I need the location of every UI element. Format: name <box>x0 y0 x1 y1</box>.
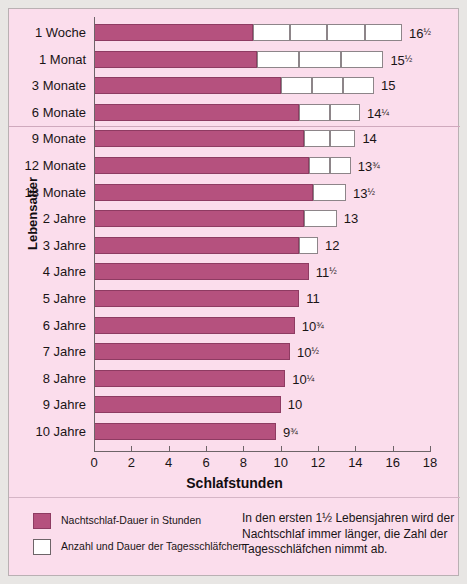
bar-value-label: 9¾ <box>283 423 298 441</box>
x-axis-tick-label: 6 <box>191 455 221 470</box>
category-label: 9 Jahre <box>9 397 86 412</box>
bar-segment-nap <box>304 130 330 147</box>
bar-segment-night-sleep <box>94 77 281 94</box>
bar-segment-nap <box>313 184 346 201</box>
bar-value-label: 15 <box>381 77 395 94</box>
bar-segment-nap <box>365 24 402 41</box>
x-axis-tick <box>131 446 132 451</box>
bar-segment-nap <box>309 157 330 174</box>
chart-caption: In den ersten 1½ Lebensjahren wird der N… <box>242 511 457 558</box>
bar-segment-night-sleep <box>94 51 257 68</box>
x-axis-tick-label: 10 <box>266 455 296 470</box>
bar-segment-nap <box>253 24 290 41</box>
category-label: 12 Monate <box>9 158 86 173</box>
bar-segment-night-sleep <box>94 396 281 413</box>
x-axis-tick <box>243 446 244 451</box>
category-label: 10 Jahre <box>9 424 86 439</box>
x-axis-tick <box>355 446 356 451</box>
bar-value-label: 13 <box>344 210 358 227</box>
bar-segment-nap <box>299 237 318 254</box>
category-label: 5 Jahre <box>9 291 86 306</box>
x-axis-tick <box>94 446 95 451</box>
x-axis-tick-label: 16 <box>378 455 408 470</box>
bar-segment-night-sleep <box>94 184 313 201</box>
category-label: 6 Jahre <box>9 318 86 333</box>
bar-value-label: 13¾ <box>358 157 380 175</box>
x-axis-tick-label: 4 <box>154 455 184 470</box>
legend-label-night-sleep: Nachtschlaf-Dauer in Stunden <box>61 514 201 526</box>
bar-segment-night-sleep <box>94 130 304 147</box>
bar-value-label: 13½ <box>353 184 375 202</box>
bar-segment-night-sleep <box>94 317 295 334</box>
group-divider-line <box>9 126 460 127</box>
bar-value-label: 10¾ <box>302 317 324 335</box>
table-row <box>94 396 281 413</box>
table-row <box>94 370 285 387</box>
bar-segment-nap <box>327 24 364 41</box>
bar-value-label: 10½ <box>297 343 319 361</box>
bar-segment-night-sleep <box>94 290 299 307</box>
bar-value-label: 10 <box>288 396 302 413</box>
table-row <box>94 104 360 121</box>
bar-segment-nap <box>330 130 356 147</box>
category-label: 3 Monate <box>9 78 86 93</box>
bar-segment-nap <box>330 157 351 174</box>
bar-segment-nap <box>299 104 329 121</box>
bar-segment-night-sleep <box>94 210 304 227</box>
x-axis-tick-label: 18 <box>415 455 445 470</box>
category-label: 4 Jahre <box>9 264 86 279</box>
table-row <box>94 184 346 201</box>
x-axis-line <box>94 451 431 452</box>
bar-segment-night-sleep <box>94 157 309 174</box>
category-label: 1 Woche <box>9 25 86 40</box>
bar-value-label: 10¼ <box>292 370 314 388</box>
x-axis-tick <box>169 446 170 451</box>
category-label: 8 Jahre <box>9 371 86 386</box>
category-label: 1 Monat <box>9 52 86 67</box>
x-axis-tick <box>281 446 282 451</box>
bar-segment-night-sleep <box>94 24 253 41</box>
plot-area: 1 Woche1 Monat3 Monate6 Monate9 Monate12… <box>9 9 460 461</box>
table-row <box>94 423 276 440</box>
bar-segment-night-sleep <box>94 423 276 440</box>
footer-divider <box>9 497 460 498</box>
x-axis-tick-label: 12 <box>303 455 333 470</box>
bar-value-label: 11½ <box>316 263 337 281</box>
category-label: 9 Monate <box>9 131 86 146</box>
legend-label-naps: Anzahl und Dauer der Tagesschläfchen <box>61 540 244 552</box>
y-axis-line <box>94 17 95 447</box>
x-axis-tick <box>318 446 319 451</box>
x-axis-tick-label: 14 <box>340 455 370 470</box>
chart-frame: 1 Woche1 Monat3 Monate6 Monate9 Monate12… <box>8 8 459 576</box>
bar-value-label: 11 <box>306 290 320 307</box>
category-label: 3 Jahre <box>9 238 86 253</box>
bar-segment-nap <box>299 51 341 68</box>
x-axis-title: Schlafstunden <box>9 475 460 491</box>
bar-value-label: 16½ <box>409 24 431 42</box>
bar-segment-nap <box>290 24 327 41</box>
table-row <box>94 51 383 68</box>
bar-segment-night-sleep <box>94 104 299 121</box>
table-row <box>94 237 318 254</box>
x-axis-tick-label: 2 <box>116 455 146 470</box>
bar-segment-night-sleep <box>94 370 285 387</box>
x-axis-tick <box>430 446 431 451</box>
table-row <box>94 343 290 360</box>
bar-value-label: 14¼ <box>367 104 389 122</box>
bar-segment-nap <box>312 77 343 94</box>
legend-swatch-naps <box>33 539 51 555</box>
bar-segment-nap <box>343 77 374 94</box>
bar-segment-nap <box>304 210 337 227</box>
table-row <box>94 317 295 334</box>
table-row <box>94 24 402 41</box>
bar-segment-nap <box>257 51 299 68</box>
table-row <box>94 210 337 227</box>
bar-value-label: 14 <box>362 130 376 147</box>
table-row <box>94 157 351 174</box>
bar-segment-nap <box>281 77 312 94</box>
x-axis-tick <box>393 446 394 451</box>
table-row <box>94 77 374 94</box>
category-label: 2 Jahre <box>9 211 86 226</box>
x-axis-tick-label: 0 <box>79 455 109 470</box>
legend-swatch-night-sleep <box>33 513 51 529</box>
